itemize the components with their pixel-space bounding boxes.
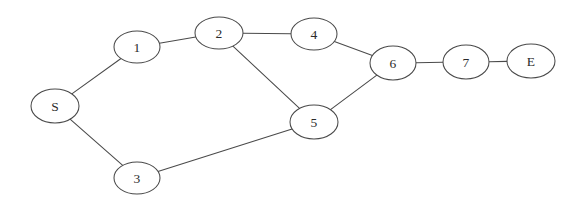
graph-node-6[interactable]: 6 <box>370 46 416 80</box>
node-label-5: 5 <box>311 115 318 130</box>
node-label-4: 4 <box>311 27 318 42</box>
graph-edge-4-6 <box>334 41 372 55</box>
graph-node-S[interactable]: S <box>31 89 79 123</box>
graph-node-7[interactable]: 7 <box>443 45 489 79</box>
node-label-S: S <box>51 99 59 114</box>
graph-node-4[interactable]: 4 <box>291 18 337 50</box>
graph-node-E[interactable]: E <box>507 44 555 78</box>
node-label-3: 3 <box>134 171 141 186</box>
node-label-7: 7 <box>463 55 470 70</box>
node-label-2: 2 <box>216 26 223 41</box>
graph-node-1[interactable]: 1 <box>114 31 160 63</box>
graph-edge-S-1 <box>72 59 121 94</box>
graph-node-2[interactable]: 2 <box>195 17 243 49</box>
node-label-6: 6 <box>390 56 397 71</box>
graph-node-5[interactable]: 5 <box>290 105 338 139</box>
graph-edge-2-5 <box>233 46 300 108</box>
graph-canvas: S1234567E <box>0 0 584 206</box>
graph-node-3[interactable]: 3 <box>114 162 160 194</box>
graph-edge-2-4 <box>243 33 291 34</box>
nodes-layer: S1234567E <box>31 17 555 194</box>
node-label-1: 1 <box>134 40 141 55</box>
graph-edge-1-2 <box>159 37 195 43</box>
graph-diagram: S1234567E <box>0 0 584 206</box>
graph-edge-5-6 <box>331 75 377 110</box>
graph-edge-3-5 <box>158 129 292 171</box>
graph-edge-S-3 <box>70 119 123 165</box>
node-label-E: E <box>527 54 535 69</box>
